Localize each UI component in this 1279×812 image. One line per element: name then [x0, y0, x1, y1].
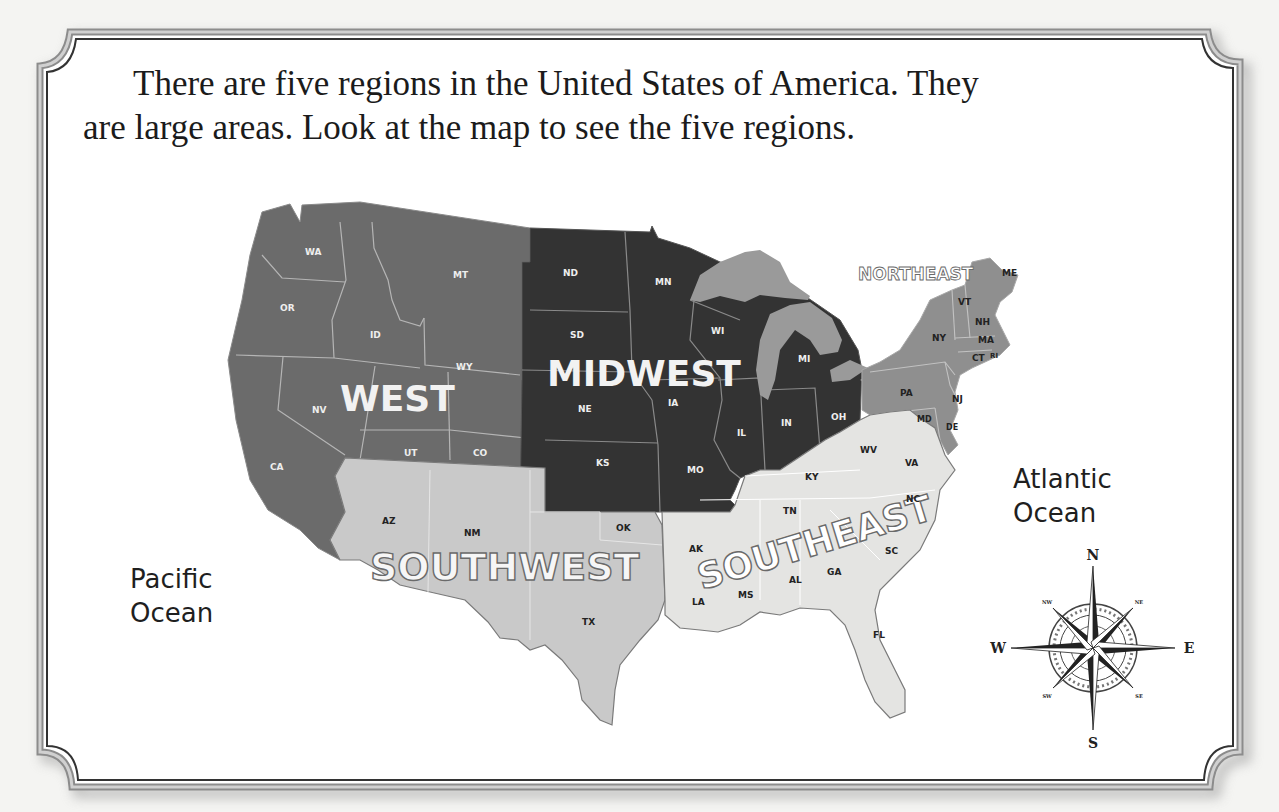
state-MT: MT [453, 270, 469, 280]
state-OH: OH [831, 412, 846, 422]
state-FL: FL [873, 630, 885, 640]
state-NY: NY [932, 333, 947, 343]
state-IL: IL [737, 428, 746, 438]
state-GA: GA [827, 567, 841, 577]
state-VA: VA [905, 458, 918, 468]
pacific-line-2: Ocean [130, 596, 213, 630]
state-ND: ND [563, 268, 578, 278]
state-OR: OR [280, 303, 295, 313]
state-WV: WV [860, 445, 877, 455]
compass-nw: NW [1042, 599, 1053, 605]
state-NC: NC [906, 494, 921, 504]
compass-w: W [989, 640, 1006, 656]
state-KY: KY [805, 472, 819, 482]
state-NE: NE [578, 404, 592, 414]
state-SD: SD [570, 330, 584, 340]
compass-se: SE [1135, 693, 1143, 699]
state-WI: WI [711, 326, 724, 336]
atlantic-ocean-label: Atlantic Ocean [1013, 462, 1112, 530]
state-IN: IN [781, 418, 792, 428]
state-LA: LA [692, 597, 705, 607]
compass-rose: N S E W NW NE SW SE [989, 547, 1194, 751]
state-PA: PA [900, 388, 913, 398]
state-ME: ME [1002, 268, 1017, 278]
compass-ne: NE [1135, 599, 1144, 605]
label-southwest: SOUTHWEST [370, 545, 639, 589]
state-AL: AL [789, 575, 802, 585]
state-IA: IA [668, 398, 678, 408]
state-UT: UT [404, 448, 418, 458]
state-CA: CA [270, 462, 284, 472]
label-midwest: MIDWEST [547, 353, 741, 394]
pacific-ocean-label: Pacific Ocean [130, 562, 213, 630]
compass-n: N [1087, 547, 1100, 563]
state-NV: NV [312, 405, 327, 415]
state-AZ: AZ [382, 516, 396, 526]
state-MD: MD [917, 415, 932, 424]
state-AK: AK [689, 544, 704, 554]
state-VT: VT [958, 297, 972, 307]
pacific-line-1: Pacific [130, 562, 213, 596]
state-NH: NH [975, 317, 990, 327]
state-MI: MI [798, 354, 810, 364]
state-MA: MA [978, 335, 994, 345]
compass-e: E [1184, 640, 1195, 656]
state-CO: CO [473, 448, 488, 458]
label-west: WEST [340, 378, 455, 419]
state-NJ: NJ [952, 394, 963, 404]
atlantic-line-1: Atlantic [1013, 462, 1112, 496]
state-ID: ID [370, 330, 381, 340]
state-TX: TX [582, 617, 595, 627]
state-NM: NM [464, 528, 481, 538]
state-WA: WA [305, 247, 322, 257]
compass-sw: SW [1042, 693, 1052, 699]
state-WY: WY [456, 362, 473, 372]
state-MS: MS [738, 590, 753, 600]
state-DE: DE [946, 423, 958, 432]
atlantic-line-2: Ocean [1013, 496, 1112, 530]
state-CT: CT [972, 353, 986, 363]
label-northeast: NORTHEAST [858, 264, 974, 284]
state-RI: RI [990, 352, 998, 360]
state-MO: MO [687, 465, 704, 475]
compass-s: S [1088, 735, 1098, 751]
us-regions-map: WEST MIDWEST SOUTHWEST SOUTHEAST NORTHEA… [0, 0, 1279, 812]
state-TN: TN [783, 506, 797, 516]
state-KS: KS [596, 458, 609, 468]
state-MN: MN [655, 277, 672, 287]
state-OK: OK [616, 523, 632, 533]
state-SC: SC [885, 546, 898, 556]
